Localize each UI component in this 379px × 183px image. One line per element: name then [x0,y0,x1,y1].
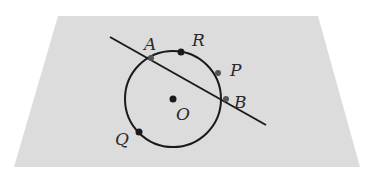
label-Q: Q [115,129,129,149]
label-O: O [176,104,190,124]
point-A [148,55,154,61]
circle-secant-diagram: A R P B O Q [0,0,379,183]
diagram-canvas: A R P B O Q [0,0,379,183]
label-B: B [233,92,247,112]
point-Q [136,129,143,136]
label-A: A [142,34,156,54]
label-R: R [191,30,205,50]
point-B [223,96,229,102]
point-O [170,96,177,103]
point-R [178,49,185,56]
label-P: P [229,60,242,80]
point-P [215,70,221,76]
